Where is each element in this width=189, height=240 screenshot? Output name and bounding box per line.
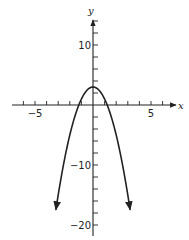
y-tick-label: −10 xyxy=(70,160,91,171)
y-axis-label: y xyxy=(87,5,94,16)
tick-labels: −5510−10−20 xyxy=(28,40,155,231)
x-tick-label: −5 xyxy=(28,108,43,119)
y-tick-label: −20 xyxy=(70,220,91,231)
axes xyxy=(12,20,176,236)
y-tick-label: 10 xyxy=(78,40,91,51)
x-axis-label: x xyxy=(178,100,184,111)
x-tick-label: 5 xyxy=(148,108,154,119)
parabola-plot: −5510−10−20 x y xyxy=(0,0,189,240)
